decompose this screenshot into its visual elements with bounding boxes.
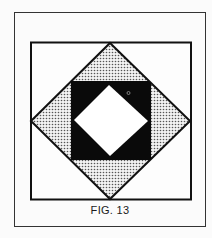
figure-caption: FIG. 13: [14, 204, 206, 216]
quilt-block-diagram: [0, 0, 212, 238]
